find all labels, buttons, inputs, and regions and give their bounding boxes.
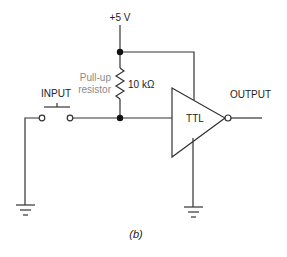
output-label: OUTPUT [230, 89, 271, 100]
junction-dot-input [117, 115, 123, 121]
input-label: INPUT [41, 88, 71, 99]
switch-ground-wire [25, 118, 39, 205]
figure-caption: (b) [129, 228, 143, 240]
junction-dot-supply [117, 49, 123, 55]
switch-terminal-right [67, 115, 73, 121]
ground-icon-left [16, 205, 35, 215]
resistor-name-line2: resistor [78, 84, 111, 95]
circuit-diagram: +5 V Pull-up resistor 10 kΩ INPUT TTL OU… [0, 0, 287, 257]
resistor-name-line1: Pull-up [80, 72, 112, 83]
resistor-icon [116, 68, 124, 99]
gate-supply-wire [120, 52, 194, 100]
gate-label: TTL [186, 113, 204, 124]
inverter-bubble-icon [225, 115, 231, 121]
ground-icon-gate [184, 207, 203, 217]
resistor-value: 10 kΩ [128, 79, 155, 90]
switch-terminal-left [39, 115, 45, 121]
supply-label: +5 V [110, 12, 131, 23]
